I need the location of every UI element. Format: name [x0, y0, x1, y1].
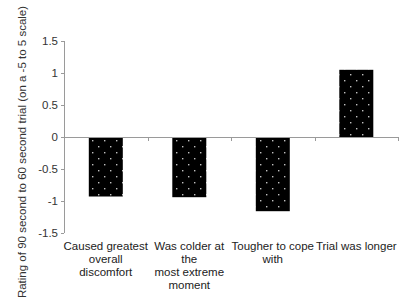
y-tick-label: 1 — [52, 67, 58, 79]
y-tick-label: 0 — [52, 131, 58, 143]
x-category-label: Trial was longer — [313, 240, 399, 253]
y-tick-label: 1.5 — [42, 35, 58, 47]
x-category-label: Caused greatestoveralldiscomfort — [63, 240, 149, 279]
y-tick-label: -1.5 — [38, 227, 58, 239]
bar — [172, 137, 206, 197]
y-tick-label: -0.5 — [38, 163, 58, 175]
y-tick-label: -1 — [48, 195, 58, 207]
y-tick-label: 0.5 — [42, 99, 58, 111]
bar-chart: Rating of 90 second to 60 second trial (… — [0, 0, 414, 302]
bar — [89, 137, 123, 197]
bar — [339, 70, 373, 137]
bar — [256, 137, 290, 211]
x-category-label: Tougher to copewith — [230, 240, 316, 266]
y-axis-label: Rating of 90 second to 60 second trial (… — [16, 6, 28, 298]
x-category-label: Was colder at themost extrememoment — [146, 240, 232, 292]
